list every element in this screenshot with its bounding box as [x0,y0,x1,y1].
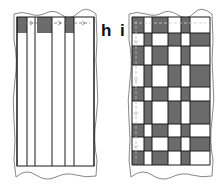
grid-cell-gray [181,151,190,165]
panel-label-i: i [120,22,125,39]
grid-cell-gray [152,17,168,33]
grid-cell-gray [168,65,181,87]
grid-cell-gray [132,124,144,137]
grid-cell-gray [144,33,152,46]
grid-cell-gray [168,101,181,124]
panel-h-wavy-outline [13,9,98,179]
grid-cell-gray [181,87,190,101]
panel-label-h: h [101,22,111,39]
grid-cell-gray [132,46,144,65]
grid-cell-gray [190,137,210,151]
panel-i-diagram [132,17,210,165]
warp-gray-block [37,17,52,33]
arrowhead-icon [82,21,85,25]
grid-cell-gray [190,33,210,46]
grid-cell-gray [190,65,210,87]
panel-h-diagram [17,17,94,166]
grid-cell-gray [144,65,152,87]
grid-cell-gray [181,46,190,65]
grid-cell-gray [152,87,168,101]
grid-cell-gray [152,124,168,137]
grid-cell-gray [168,137,181,151]
panel-h-frame [17,17,94,166]
grid-cell-gray [181,124,190,137]
grid-cell-gray [132,17,144,33]
grid-cell-gray [190,101,210,124]
warp-gray-block [17,17,27,33]
grid-cell-gray [144,137,152,151]
grid-cell-gray [132,87,144,101]
warp-gray-block [65,17,74,33]
grid-cell-gray [144,101,152,124]
grid-cell-gray [168,33,181,46]
grid-cell-gray [181,17,190,33]
grid-cell-gray [132,151,144,165]
grid-cell-gray [152,46,168,65]
grid-cell-gray [152,151,168,165]
